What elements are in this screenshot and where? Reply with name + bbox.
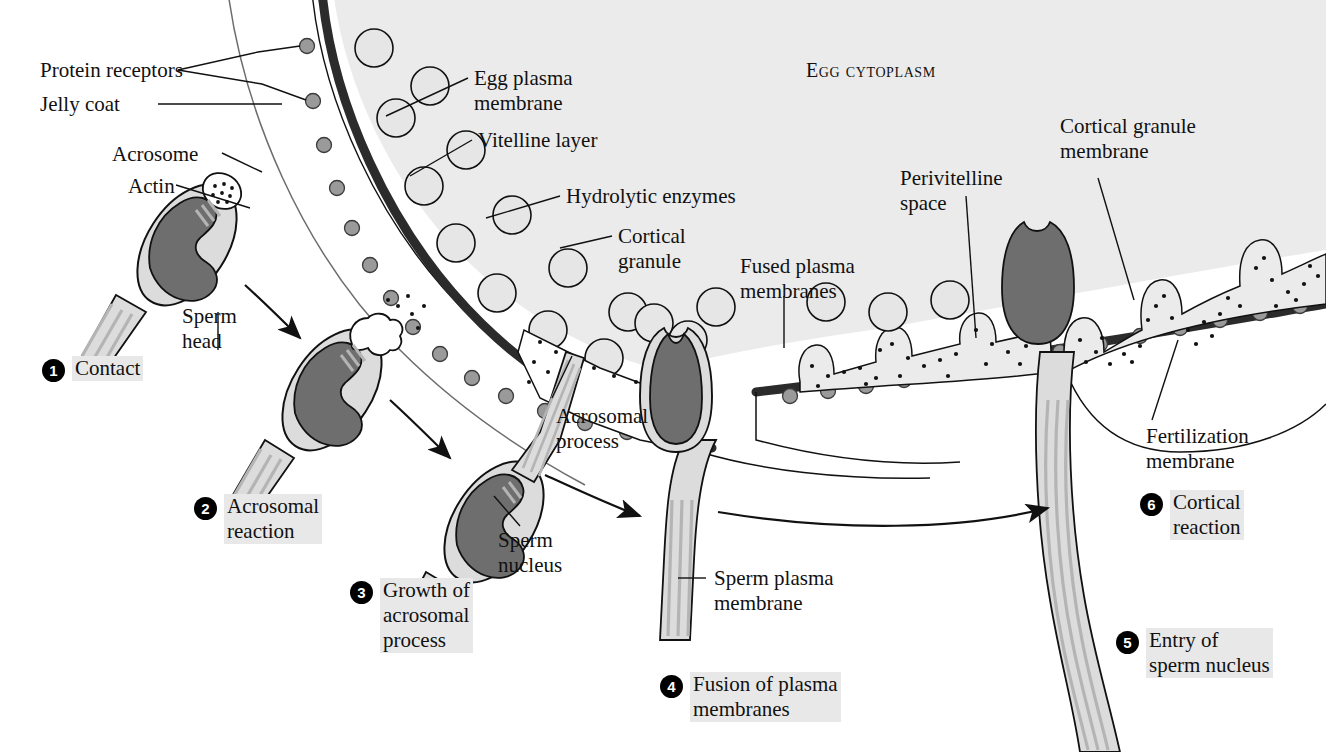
- step-6-number: 6: [1140, 493, 1163, 516]
- step-1: 1 Contact: [42, 356, 143, 382]
- callout-egg-plasma-membrane: Egg plasma membrane: [474, 66, 573, 116]
- interior-boundary-left: [700, 452, 930, 478]
- fertilization-diagram: Egg cytoplasm Protein receptors Jelly co…: [0, 0, 1326, 752]
- callout-perivitelline-space: Perivitelline space: [900, 166, 1003, 216]
- callout-cortical-granule-membrane: Cortical granule membrane: [1060, 114, 1196, 164]
- step-3-label: Growth of acrosomal process: [380, 578, 473, 653]
- step-1-number: 1: [42, 359, 65, 382]
- callout-sperm-plasma-membrane: Sperm plasma membrane: [714, 566, 834, 616]
- step-6: 6 Cortical reaction: [1140, 490, 1244, 540]
- callout-fertilization-membrane: Fertilization membrane: [1146, 424, 1249, 474]
- callout-vitelline-layer: Vitelline layer: [478, 128, 597, 153]
- callout-sperm-nucleus: Sperm nucleus: [498, 528, 562, 578]
- sperm-step-4: [640, 328, 716, 640]
- step-2-label: Acrosomal reaction: [224, 494, 322, 544]
- callout-protein-receptors: Protein receptors: [40, 58, 183, 83]
- callout-actin: Actin: [128, 174, 175, 199]
- callout-acrosome: Acrosome: [112, 142, 198, 167]
- step-2: 2 Acrosomal reaction: [194, 494, 322, 544]
- step-3: 3 Growth of acrosomal process: [350, 578, 473, 653]
- step-4-number: 4: [660, 675, 683, 698]
- step-3-number: 3: [350, 581, 373, 604]
- step-4-label: Fusion of plasma membranes: [690, 672, 841, 722]
- step-5-number: 5: [1116, 631, 1139, 654]
- step-5-label: Entry of sperm nucleus: [1146, 628, 1273, 678]
- step-4: 4 Fusion of plasma membranes: [660, 672, 841, 722]
- callout-fused-plasma-membranes: Fused plasma membranes: [740, 254, 855, 304]
- step-2-number: 2: [194, 497, 217, 520]
- step-1-label: Contact: [72, 356, 143, 381]
- callout-hydrolytic-enzymes: Hydrolytic enzymes: [566, 184, 736, 209]
- step-6-label: Cortical reaction: [1170, 490, 1244, 540]
- callout-acrosomal-process: Acrosomal process: [556, 404, 648, 454]
- callout-jelly-coat: Jelly coat: [40, 92, 120, 117]
- step-5: 5 Entry of sperm nucleus: [1116, 628, 1273, 678]
- callout-sperm-head: Sperm head: [182, 304, 237, 354]
- callout-cortical-granule: Cortical granule: [618, 224, 686, 274]
- egg-cytoplasm-label: Egg cytoplasm: [806, 58, 936, 83]
